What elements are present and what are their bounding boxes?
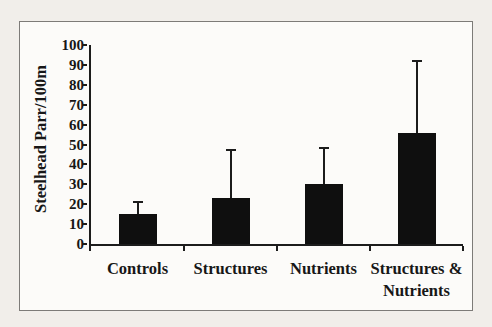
- y-tick-label: 100: [40, 36, 84, 54]
- y-tick-label: 0: [40, 235, 84, 253]
- y-tick-mark: [82, 44, 87, 46]
- y-tick-mark: [82, 223, 87, 225]
- x-tick-mark: [369, 246, 371, 251]
- x-tick-mark: [183, 246, 185, 251]
- y-tick-label: 30: [40, 175, 84, 193]
- error-bar-line: [416, 61, 418, 133]
- bar-controls: [119, 214, 157, 244]
- y-tick-mark: [82, 84, 87, 86]
- y-tick-label: 40: [40, 155, 84, 173]
- error-bar-line: [323, 149, 325, 185]
- plot-area: [89, 45, 463, 246]
- y-tick-mark: [82, 104, 87, 106]
- error-bar-cap: [226, 149, 236, 151]
- y-tick-label: 10: [40, 215, 84, 233]
- y-tick-mark: [82, 144, 87, 146]
- y-tick-label: 50: [40, 136, 84, 154]
- y-tick-mark: [82, 203, 87, 205]
- y-tick-label: 90: [40, 56, 84, 74]
- y-tick-label: 80: [40, 76, 84, 94]
- figure: Steelhead Parr/100m 01020304050607080901…: [0, 0, 492, 327]
- x-tick-mark: [89, 246, 91, 251]
- error-bar-cap: [319, 147, 329, 149]
- bar-structures-: [398, 133, 436, 244]
- x-tick-mark: [462, 246, 464, 251]
- error-bar-cap: [133, 201, 143, 203]
- y-tick-mark: [82, 243, 87, 245]
- y-tick-mark: [82, 64, 87, 66]
- y-tick-mark: [82, 163, 87, 165]
- y-tick-mark: [82, 124, 87, 126]
- bar-nutrients: [305, 184, 343, 244]
- y-tick-label: 60: [40, 116, 84, 134]
- y-tick-label: 70: [40, 96, 84, 114]
- y-tick-label: 20: [40, 195, 84, 213]
- bar-structures: [212, 198, 250, 244]
- y-tick-mark: [82, 183, 87, 185]
- error-bar-line: [137, 202, 139, 214]
- error-bar-line: [230, 150, 232, 198]
- x-category-label: Structures & Nutrients: [351, 258, 483, 302]
- x-tick-mark: [276, 246, 278, 251]
- error-bar-cap: [412, 60, 422, 62]
